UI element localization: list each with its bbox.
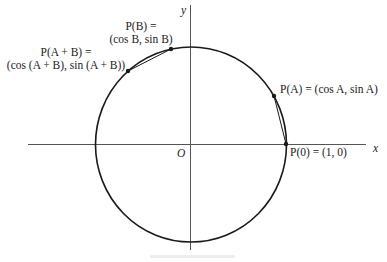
y-axis-label: y [181,4,186,17]
point-pab-label: P(A + B) = (cos (A + B), sin (A + B)) [4,46,128,72]
x-axis-label: x [373,142,378,155]
point-pb-label: P(B) = (cos B, sin B) [108,20,174,46]
point-pb-label-line2: (cos B, sin B) [108,33,174,46]
unit-circle-diagram: y x O P(0) = (1, 0) P(A) = (cos A, sin A… [0,0,387,262]
point-p0 [284,142,288,146]
origin-label: O [177,147,185,160]
figure-caption-cutoff [150,255,235,258]
diagram-canvas [0,0,387,262]
point-pa [272,94,276,98]
point-pab-label-line1: P(A + B) = [4,46,128,59]
point-pb-label-line1: P(B) = [108,20,174,33]
point-pb [169,47,173,51]
point-pab-label-line2: (cos (A + B), sin (A + B)) [4,59,128,72]
point-pa-label: P(A) = (cos A, sin A) [280,83,378,96]
chord-pb-pab [128,49,171,71]
point-p0-label: P(0) = (1, 0) [290,146,347,159]
